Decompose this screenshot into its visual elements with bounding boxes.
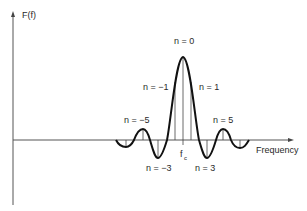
label-n3: n = 3 bbox=[195, 163, 215, 173]
sinc-spectrum-diagram: F(f) Frequency n = 0 n = 1 n = −1 n = 5 … bbox=[0, 0, 307, 211]
x-axis bbox=[13, 138, 294, 142]
label-n-minus-5: n = −5 bbox=[124, 115, 150, 125]
x-axis-arrow-icon bbox=[288, 138, 294, 142]
center-frequency-subscript: c bbox=[184, 155, 187, 161]
sinc-envelope-curve bbox=[116, 57, 249, 158]
spectral-lines bbox=[126, 58, 240, 157]
y-axis-arrow-icon bbox=[11, 11, 15, 17]
x-axis-label: Frequency bbox=[256, 145, 299, 155]
label-n5: n = 5 bbox=[213, 115, 233, 125]
center-frequency-label: f bbox=[180, 149, 183, 159]
label-n1: n = 1 bbox=[199, 82, 219, 92]
y-axis-label: F(f) bbox=[22, 10, 36, 20]
label-n0: n = 0 bbox=[174, 36, 194, 46]
label-n-minus-3: n = −3 bbox=[146, 163, 172, 173]
label-n-minus-1: n = −1 bbox=[143, 82, 169, 92]
y-axis bbox=[11, 11, 15, 205]
